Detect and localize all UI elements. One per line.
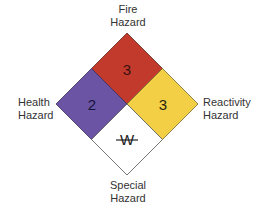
fire-value: 3 — [123, 61, 131, 78]
health-value: 2 — [88, 96, 96, 113]
reactivity-value: 3 — [159, 96, 167, 113]
hazard-diamond: 3 2 3 W — [0, 0, 266, 210]
